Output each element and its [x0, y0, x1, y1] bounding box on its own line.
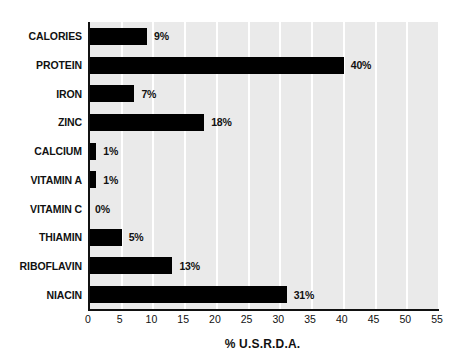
x-tick-label: 15 — [177, 313, 189, 325]
category-label: THIAMIN — [0, 223, 82, 252]
bar — [90, 114, 204, 131]
x-tick-label: 25 — [241, 313, 253, 325]
plot-area: 9%40%7%18%1%1%0%5%13%31% — [88, 22, 439, 311]
bar-row: 13% — [90, 252, 439, 281]
x-tick-label: 50 — [399, 313, 411, 325]
bar-row: 0% — [90, 194, 439, 223]
chart-page: 9%40%7%18%1%1%0%5%13%31% CALORIESPROTEIN… — [0, 0, 464, 363]
bar — [90, 143, 96, 160]
bar-value-label: 13% — [179, 260, 199, 272]
bar-row: 1% — [90, 137, 439, 166]
bar — [90, 257, 172, 274]
category-axis-labels: CALORIESPROTEINIRONZINCCALCIUMVITAMIN AV… — [0, 22, 82, 309]
bar — [90, 57, 344, 74]
bar-row: 18% — [90, 108, 439, 137]
x-tick-label: 45 — [368, 313, 380, 325]
bar-value-label: 31% — [294, 289, 314, 301]
category-label: IRON — [0, 79, 82, 108]
bar-value-label: 7% — [141, 88, 156, 100]
x-axis-tick-labels: 0510152025303540455055 — [88, 313, 437, 329]
bar-value-label: 5% — [129, 231, 144, 243]
bar-value-label: 18% — [211, 116, 231, 128]
x-axis-title: % U.S.R.D.A. — [88, 337, 437, 351]
bar-row: 1% — [90, 166, 439, 195]
bar-value-label: 1% — [103, 174, 118, 186]
category-label: NIACIN — [0, 280, 82, 309]
bar-row: 31% — [90, 280, 439, 309]
category-label: VITAMIN A — [0, 166, 82, 195]
x-tick-label: 10 — [146, 313, 158, 325]
bar — [90, 85, 134, 102]
category-label: CALCIUM — [0, 137, 82, 166]
bar-row: 40% — [90, 51, 439, 80]
bar — [90, 229, 122, 246]
bar-value-label: 0% — [95, 203, 110, 215]
x-tick-label: 20 — [209, 313, 221, 325]
bars-layer: 9%40%7%18%1%1%0%5%13%31% — [90, 22, 439, 309]
bar-row: 5% — [90, 223, 439, 252]
bar-value-label: 9% — [154, 30, 169, 42]
bar — [90, 28, 147, 45]
x-tick-label: 5 — [117, 313, 123, 325]
bar-row: 9% — [90, 22, 439, 51]
category-label: CALORIES — [0, 22, 82, 51]
x-tick-label: 55 — [431, 313, 443, 325]
bar-row: 7% — [90, 79, 439, 108]
x-tick-label: 30 — [273, 313, 285, 325]
x-tick-label: 0 — [85, 313, 91, 325]
category-label: VITAMIN C — [0, 194, 82, 223]
category-label: RIBOFLAVIN — [0, 252, 82, 281]
category-label: PROTEIN — [0, 51, 82, 80]
bar-value-label: 1% — [103, 145, 118, 157]
bar-value-label: 40% — [351, 59, 371, 71]
category-label: ZINC — [0, 108, 82, 137]
x-tick-label: 40 — [336, 313, 348, 325]
bar — [90, 286, 287, 303]
bar — [90, 171, 96, 188]
x-tick-label: 35 — [304, 313, 316, 325]
